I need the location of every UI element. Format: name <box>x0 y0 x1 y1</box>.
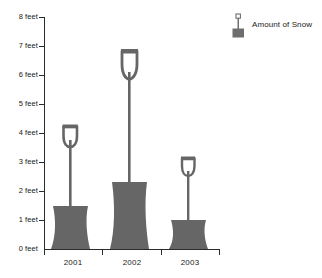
shovel-shaft-2002 <box>128 72 131 182</box>
bar-2003 <box>169 157 208 250</box>
snow-amount-chart: 8 feet 7 feet 6 feet 5 feet 4 feet 3 fee… <box>0 0 322 278</box>
shovel-blade-2002 <box>110 182 149 249</box>
bar-2001 <box>51 125 90 250</box>
shovel-grip-top-2003 <box>181 157 195 160</box>
shovel-grip-top-2002 <box>121 49 138 53</box>
shovel-blade-2003 <box>169 220 208 249</box>
bar-2002 <box>110 49 149 249</box>
bars-layer <box>0 0 322 278</box>
shovel-shaft-2001 <box>69 140 72 206</box>
shovel-grip-top-2001 <box>63 125 78 129</box>
shovel-shaft-2003 <box>187 171 189 220</box>
legend-entry-label: Amount of Snow <box>252 20 312 29</box>
shovel-blade-2001 <box>51 206 90 249</box>
legend-shovel-icon <box>233 14 245 38</box>
